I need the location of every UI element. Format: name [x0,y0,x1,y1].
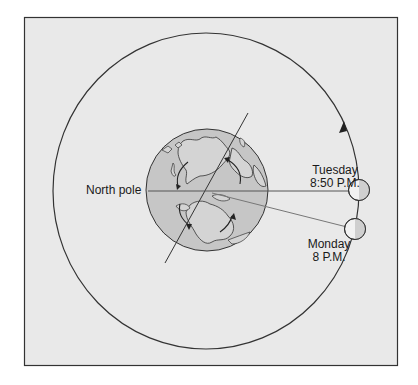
monday-time: 8 P.M. [294,251,364,264]
tuesday-time: 8:50 P.M. [300,177,370,190]
earth [146,129,268,251]
north-pole-label: North pole [86,184,141,197]
moon-orbit-diagram [0,0,418,385]
